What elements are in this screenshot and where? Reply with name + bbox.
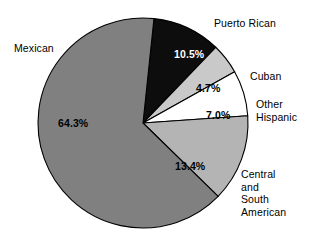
slice-label-mexican: Mexican (14, 42, 54, 55)
slice-value-other-hispanic: 7.0% (206, 109, 230, 121)
slice-value-central-and-south-american: 13.4% (175, 160, 205, 172)
slice-label-central-line2: and (241, 181, 259, 193)
slice-label-central-and-south-american: CentralandSouthAmerican (241, 168, 286, 218)
slice-label-puerto-rican: Puerto Rican (214, 17, 276, 30)
slice-label-other-hispanic-line1: Other (256, 98, 283, 110)
slice-value-cuban: 4.7% (196, 82, 220, 94)
slice-label-central-line4: American (241, 206, 286, 218)
slice-label-other-hispanic: OtherHispanic (256, 98, 297, 123)
slice-label-central-line1: Central (241, 168, 276, 180)
slice-value-mexican: 64.3% (58, 117, 88, 129)
slice-label-other-hispanic-line2: Hispanic (256, 111, 297, 123)
slice-value-puerto-rican: 10.5% (174, 48, 204, 60)
pie-chart-figure: Mexican Puerto Rican Cuban OtherHispanic… (0, 0, 310, 242)
slice-label-cuban: Cuban (250, 70, 281, 83)
slice-label-central-line3: South (241, 193, 269, 205)
